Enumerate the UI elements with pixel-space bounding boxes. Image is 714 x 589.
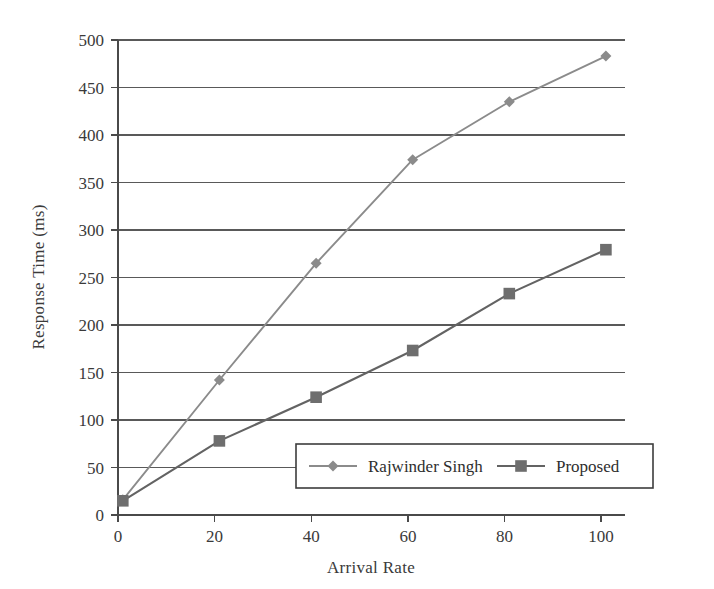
y-tick-label-350: 350 <box>79 174 105 193</box>
x-axis-title: Arrival Rate <box>327 558 415 577</box>
square-marker <box>515 460 527 472</box>
y-tick-label-500: 500 <box>79 31 105 50</box>
square-marker <box>504 288 516 300</box>
x-tick-label-80: 80 <box>496 527 513 546</box>
x-tick-label-20: 20 <box>206 527 223 546</box>
x-axis-tick-labels: 0 20 40 60 80 100 <box>114 527 614 546</box>
y-axis-title: Response Time (ms) <box>29 204 48 349</box>
y-tick-label-400: 400 <box>79 126 105 145</box>
response-time-line-chart: 0 50 100 150 200 250 300 350 400 450 500… <box>0 0 714 589</box>
y-tick-label-100: 100 <box>79 411 105 430</box>
x-tick-label-0: 0 <box>114 527 123 546</box>
square-marker <box>117 495 129 507</box>
square-marker <box>407 345 419 357</box>
legend-label-rajwinder-singh: Rajwinder Singh <box>368 457 483 476</box>
y-tick-label-450: 450 <box>79 79 105 98</box>
chart-page: 0 50 100 150 200 250 300 350 400 450 500… <box>0 0 714 589</box>
square-marker <box>600 244 612 256</box>
y-tick-label-300: 300 <box>79 221 105 240</box>
y-tick-label-150: 150 <box>79 364 105 383</box>
y-tick-label-0: 0 <box>96 506 105 525</box>
x-tick-label-40: 40 <box>303 527 320 546</box>
x-tick-label-60: 60 <box>399 527 416 546</box>
square-marker <box>310 391 322 403</box>
y-tick-label-50: 50 <box>87 459 104 478</box>
chart-legend[interactable]: Rajwinder Singh Proposed <box>296 444 653 488</box>
y-tick-label-250: 250 <box>79 269 105 288</box>
x-tick-label-100: 100 <box>588 527 614 546</box>
y-axis-tick-labels: 0 50 100 150 200 250 300 350 400 450 500 <box>79 31 105 525</box>
y-axis-ticks <box>111 40 118 515</box>
y-tick-label-200: 200 <box>79 316 105 335</box>
square-marker <box>214 435 226 447</box>
x-axis-ticks <box>118 515 601 522</box>
legend-label-proposed: Proposed <box>556 457 620 476</box>
